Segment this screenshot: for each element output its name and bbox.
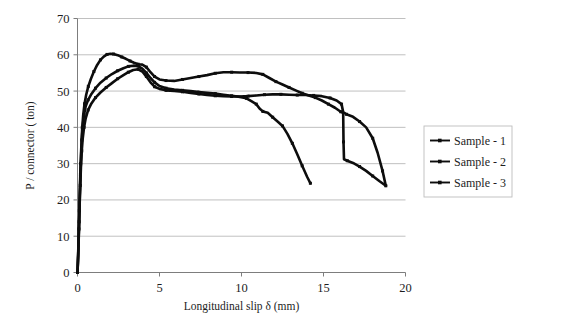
chart-figure: 05101520 010203040506070 Longitudinal sl… <box>0 0 568 335</box>
series-1-marker <box>261 110 264 113</box>
series-2-marker <box>79 162 82 165</box>
series-3-marker <box>340 103 343 106</box>
series-2-marker <box>112 53 115 56</box>
series-3-marker <box>329 96 332 99</box>
series-3-marker <box>371 137 374 140</box>
series-1-marker <box>105 77 108 80</box>
series-3-marker <box>312 94 315 97</box>
x-tick-label-0: 0 <box>74 281 80 295</box>
series-2-marker <box>371 174 374 177</box>
series-2-marker <box>128 59 131 62</box>
y-axis-title: P / connector ( ton) <box>24 101 37 190</box>
series-1-marker <box>309 182 312 185</box>
series-1-marker <box>116 69 119 72</box>
series-3-marker <box>230 95 233 98</box>
series-2-marker <box>137 63 140 66</box>
series-3-marker <box>263 93 266 96</box>
series-2-marker <box>384 184 387 187</box>
series-3-marker <box>77 227 80 230</box>
series-2-marker <box>106 53 109 56</box>
series-2-marker <box>145 66 148 69</box>
x-tick-label-20: 20 <box>399 281 412 295</box>
series-3-marker <box>381 169 384 172</box>
series-1-marker <box>255 103 258 106</box>
series-1-marker <box>87 98 90 101</box>
series-3-marker <box>214 94 217 97</box>
series-1-marker <box>145 71 148 74</box>
series-2-marker <box>261 73 264 76</box>
series-2-marker <box>99 58 102 61</box>
y-tick-label-20: 20 <box>57 193 70 207</box>
y-tick-label-30: 30 <box>57 157 70 171</box>
legend-label-1: Sample - 1 <box>454 134 506 148</box>
series-3-marker <box>79 184 82 187</box>
series-2-marker <box>342 140 345 143</box>
series-1-marker <box>94 87 97 90</box>
series-2-marker <box>339 110 342 113</box>
series-3-marker <box>279 93 282 96</box>
series-2-marker <box>181 78 184 81</box>
legend-marker-2 <box>438 160 442 164</box>
series-3-marker <box>87 108 90 111</box>
series-3-marker <box>153 85 156 88</box>
series-3-marker <box>247 95 250 98</box>
series-2-marker <box>230 71 233 74</box>
series-2-marker <box>120 55 123 58</box>
series-1-marker <box>153 81 156 84</box>
series-3-marker <box>83 126 86 129</box>
series-3-marker <box>137 68 140 71</box>
legend-marker-3 <box>438 181 442 185</box>
y-tick-label-60: 60 <box>57 48 70 62</box>
series-3-marker <box>94 96 97 99</box>
series-2-marker <box>197 75 200 78</box>
line-chart: 05101520 010203040506070 Longitudinal sl… <box>0 0 568 335</box>
series-2-marker <box>346 159 349 162</box>
series-2-marker <box>274 80 277 83</box>
chart-legend: Sample - 1Sample - 2Sample - 3 <box>424 126 512 197</box>
series-2-marker <box>288 86 291 89</box>
y-tick-label-50: 50 <box>57 85 70 99</box>
series-1-marker <box>271 116 274 119</box>
series-1-marker <box>78 220 81 223</box>
legend-label-3: Sample - 3 <box>454 176 506 190</box>
series-3-marker <box>296 94 299 97</box>
series-3-marker <box>358 120 361 123</box>
legend-marker-1 <box>438 139 442 143</box>
series-2-marker <box>247 71 250 74</box>
series-2-marker <box>153 75 156 78</box>
series-1-marker <box>127 65 130 68</box>
series-1-marker <box>281 124 284 127</box>
series-2-marker <box>358 165 361 168</box>
series-3-marker <box>345 113 348 116</box>
series-3-marker <box>145 75 148 78</box>
y-tick-label-40: 40 <box>57 121 70 135</box>
series-2-marker <box>78 209 81 212</box>
series-2-marker <box>87 85 90 88</box>
series-2-marker <box>92 70 95 73</box>
y-tick-label-0: 0 <box>63 266 69 280</box>
series-1-marker <box>291 142 294 145</box>
legend-label-2: Sample - 2 <box>454 155 506 169</box>
x-axis-title: Longitudinal slip δ (mm) <box>184 300 300 313</box>
series-3-marker <box>197 92 200 95</box>
x-tick-label-15: 15 <box>317 281 330 295</box>
series-3-marker <box>116 77 119 80</box>
series-3-marker <box>105 86 108 89</box>
series-2-marker <box>165 79 168 82</box>
x-tick-label-10: 10 <box>235 281 248 295</box>
y-tick-label-70: 70 <box>57 12 70 26</box>
x-tick-label-5: 5 <box>156 281 162 295</box>
series-1-marker <box>79 173 82 176</box>
series-3-marker <box>127 71 130 74</box>
series-3-marker <box>165 89 168 92</box>
series-3-marker <box>181 90 184 93</box>
series-2-marker <box>214 72 217 75</box>
series-3-marker <box>80 149 83 152</box>
y-tick-label-10: 10 <box>57 230 70 244</box>
series-2-marker <box>327 103 330 106</box>
series-2-marker <box>83 102 86 105</box>
series-1-marker <box>301 164 304 167</box>
series-1-marker <box>80 139 83 142</box>
series-1-marker <box>83 113 86 116</box>
series-2-marker <box>301 92 304 95</box>
